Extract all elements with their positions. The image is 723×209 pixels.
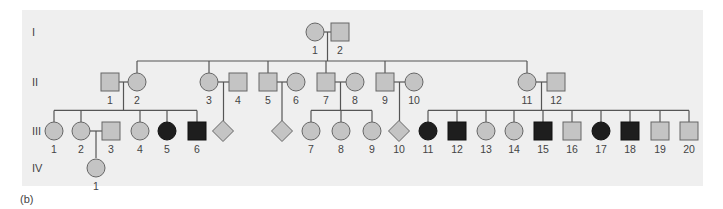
- individual-label: 9: [369, 143, 375, 155]
- affected-female-symbol-III-11: [419, 122, 437, 140]
- female-symbol-I-1: [306, 23, 324, 41]
- individual-label: 10: [393, 143, 405, 155]
- female-symbol-III-2: [72, 122, 90, 140]
- generation-label: IV: [32, 162, 43, 174]
- individual-label: 2: [337, 44, 343, 56]
- female-symbol-IV-1: [87, 159, 105, 177]
- individual-label: 18: [624, 143, 636, 155]
- male-symbol-III-3: [102, 122, 120, 140]
- female-symbol-III-13: [477, 122, 495, 140]
- individual-label: 2: [78, 143, 84, 155]
- figure-caption: (b): [20, 193, 33, 205]
- individual-label: 8: [338, 143, 344, 155]
- male-symbol-III-19: [651, 122, 669, 140]
- individual-label: 12: [550, 94, 562, 106]
- individual-label: 2: [134, 94, 140, 106]
- individual-label: 20: [683, 143, 695, 155]
- affected-female-symbol-III-17: [592, 122, 610, 140]
- individual-label: 5: [164, 143, 170, 155]
- female-symbol-III-14: [505, 122, 523, 140]
- individual-label: 11: [423, 143, 434, 155]
- individual-label: 13: [480, 143, 492, 155]
- affected-male-symbol-III-6: [188, 122, 206, 140]
- individual-label: 14: [508, 143, 520, 155]
- female-symbol-II-6: [287, 73, 305, 91]
- affected-female-symbol-III-5: [158, 122, 176, 140]
- female-symbol-II-8: [346, 73, 364, 91]
- individual-label: 1: [51, 143, 57, 155]
- generation-label: II: [32, 76, 38, 88]
- female-symbol-II-10: [405, 73, 423, 91]
- male-symbol-I-2: [331, 23, 349, 41]
- male-symbol-II-9: [376, 73, 394, 91]
- individual-label: 5: [265, 94, 271, 106]
- individual-label: 1: [312, 44, 318, 56]
- affected-male-symbol-III-12: [448, 122, 466, 140]
- individual-label: 6: [194, 143, 200, 155]
- generation-label: I: [32, 26, 35, 38]
- individual-label: 1: [93, 180, 99, 192]
- affected-male-symbol-III-18: [621, 122, 639, 140]
- individual-label: 3: [206, 94, 212, 106]
- individual-label: 1: [107, 94, 113, 106]
- pedigree-chart: IIIIIIIV12123456789101112123456789101112…: [0, 0, 723, 209]
- male-symbol-II-1: [101, 73, 119, 91]
- generation-label: III: [32, 125, 41, 137]
- affected-male-symbol-III-15: [534, 122, 552, 140]
- male-symbol-II-12: [547, 73, 565, 91]
- female-symbol-II-2: [128, 73, 146, 91]
- individual-label: 4: [137, 143, 143, 155]
- female-symbol-III-4: [131, 122, 149, 140]
- individual-label: 15: [537, 143, 549, 155]
- male-symbol-III-20: [680, 122, 698, 140]
- individual-label: 6: [293, 94, 299, 106]
- individual-label: 4: [235, 94, 241, 106]
- female-symbol-II-3: [200, 73, 218, 91]
- male-symbol-II-5: [259, 73, 277, 91]
- individual-label: 8: [352, 94, 358, 106]
- female-symbol-III-1: [45, 122, 63, 140]
- male-symbol-II-7: [317, 73, 335, 91]
- male-symbol-III-16: [563, 122, 581, 140]
- individual-label: 17: [595, 143, 607, 155]
- unknown-symbol-III-u1: [213, 121, 234, 142]
- female-symbol-II-11: [518, 73, 536, 91]
- individual-label: 9: [382, 94, 388, 106]
- individual-label: 3: [108, 143, 114, 155]
- female-symbol-III-9: [363, 122, 381, 140]
- individual-label: 19: [654, 143, 666, 155]
- female-symbol-III-8: [332, 122, 350, 140]
- individual-label: 12: [451, 143, 463, 155]
- individual-label: 16: [566, 143, 578, 155]
- unknown-symbol-III-u2: [272, 121, 293, 142]
- individual-label: 7: [308, 143, 314, 155]
- unknown-symbol-III-10: [389, 121, 410, 142]
- individual-label: 11: [522, 94, 533, 106]
- female-symbol-III-7: [302, 122, 320, 140]
- individual-label: 10: [408, 94, 420, 106]
- individual-label: 7: [323, 94, 329, 106]
- male-symbol-II-4: [229, 73, 247, 91]
